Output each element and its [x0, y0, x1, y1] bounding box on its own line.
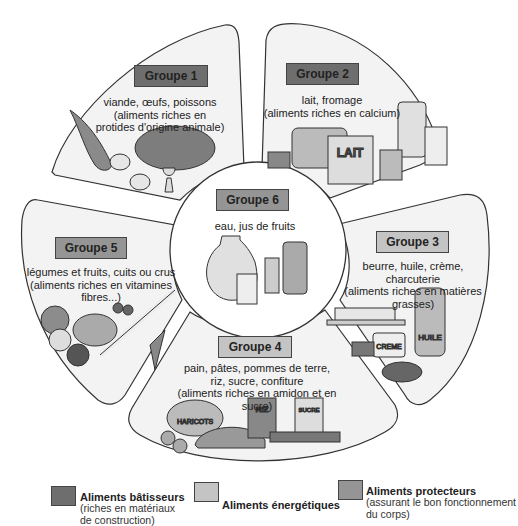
svg-text:LAIT: LAIT — [337, 146, 364, 160]
legend-swatch-protecteurs — [338, 480, 363, 500]
groupe-3-label: Groupe 3 — [376, 231, 449, 253]
groupe-3-description: beurre, huile, crème, charcuterie (alime… — [334, 260, 492, 310]
legend-item-protecteurs: Aliments protecteurs(assurant le bon fon… — [366, 474, 516, 520]
legend-item-batisseurs: Aliments bâtisseurs(riches en matériaux … — [80, 480, 185, 526]
groupe-5-label: Groupe 5 — [55, 237, 127, 259]
groupe-2-label: Groupe 2 — [286, 63, 359, 85]
svg-text:HARICOTS: HARICOTS — [177, 418, 214, 425]
legend-title-energetiques: Aliments énergétiques — [222, 500, 340, 512]
groupe-6-description: eau, jus de fruits — [205, 220, 305, 233]
svg-text:HUILE: HUILE — [418, 333, 442, 342]
groupe-1-label: Groupe 1 — [134, 65, 208, 87]
groupe-1-description: viande, œufs, poissons (aliments riches … — [85, 96, 235, 134]
groupe-4-description: pain, pâtes, pommes de terre, riz, sucre… — [172, 362, 342, 412]
legend-subtitle-protecteurs: (assurant le bon fonctionnement du corps… — [366, 496, 516, 520]
svg-text:CREME: CREME — [376, 343, 402, 350]
legend-swatch-batisseurs — [51, 486, 76, 506]
legend-item-energetiques: Aliments énergétiques — [222, 488, 340, 523]
groupe-4-label: Groupe 4 — [218, 336, 292, 358]
legend-swatch-energetiques — [194, 482, 219, 502]
groupe-6-label: Groupe 6 — [216, 189, 289, 211]
groupe-5-description: légumes et fruits, cuits ou crus (alimen… — [24, 266, 178, 304]
groupe-2-description: lait, fromage (aliments riches en calciu… — [262, 94, 402, 119]
legend-subtitle-batisseurs: (riches en matériaux de construction) — [80, 502, 175, 526]
